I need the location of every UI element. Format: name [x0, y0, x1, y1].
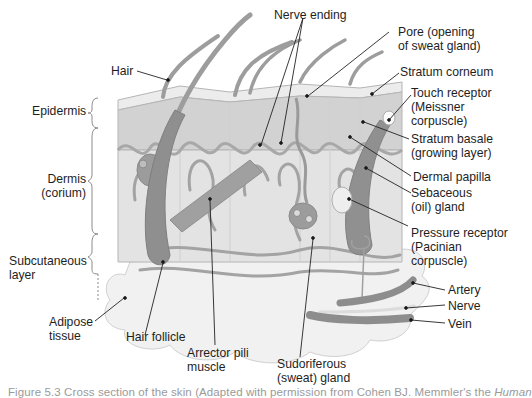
- caption-text: Cross section of the skin (Adapted with …: [61, 386, 494, 398]
- label-dermis-line2: (corium): [30, 186, 86, 200]
- label-sebaceous-gland: Sebaceous (oil) gland: [411, 186, 472, 214]
- label-artery: Artery: [448, 283, 481, 297]
- label-subcutaneous-line1: Subcutaneous: [9, 254, 87, 268]
- label-subcutaneous-line2: layer: [9, 268, 87, 282]
- meissner-corpuscle-shape: [383, 111, 395, 125]
- label-touch-receptor: Touch receptor (Meissner corpuscle): [411, 86, 492, 128]
- label-pore-line1: Pore (opening: [398, 25, 481, 39]
- adipose-tissue-shape: [105, 249, 429, 363]
- label-hair: Hair: [111, 64, 133, 78]
- label-sudoriferous-gland: Sudoriferous (sweat) gland: [277, 357, 350, 385]
- label-subcutaneous-layer: Subcutaneous layer: [9, 254, 87, 282]
- label-adipose-line1: Adipose: [49, 315, 93, 329]
- label-stratum-basale-line2: (growing layer): [411, 146, 493, 160]
- label-touch-receptor-line2: (Meissner: [411, 100, 492, 114]
- label-pore: Pore (opening of sweat gland): [398, 25, 481, 53]
- label-hair-follicle: Hair follicle: [126, 330, 186, 344]
- figure-caption: Figure 5.3 Cross section of the skin (Ad…: [8, 386, 532, 398]
- label-pressure-receptor: Pressure receptor (Pacinian corpuscle): [411, 226, 508, 268]
- label-dermal-papilla: Dermal papilla: [413, 170, 491, 184]
- label-nerve-ending: Nerve ending: [274, 8, 347, 22]
- label-touch-receptor-line3: corpuscle): [411, 114, 492, 128]
- label-stratum-basale: Stratum basale (growing layer): [411, 132, 493, 160]
- label-sebaceous-line1: Sebaceous: [411, 186, 472, 200]
- label-pore-line2: of sweat gland): [398, 39, 481, 53]
- label-touch-receptor-line1: Touch receptor: [411, 86, 492, 100]
- layer-brackets: [88, 98, 98, 302]
- caption-italic: Human: [494, 386, 532, 398]
- label-pressure-receptor-line3: corpuscle): [411, 254, 508, 268]
- label-arrector-line1: Arrector pili: [187, 346, 249, 360]
- label-epidermis: Epidermis: [32, 104, 86, 118]
- label-arrector-line2: muscle: [187, 360, 249, 374]
- label-nerve: Nerve: [448, 299, 481, 313]
- label-dermis: Dermis (corium): [30, 172, 86, 200]
- label-sudoriferous-line2: (sweat) gland: [277, 371, 350, 385]
- label-dermis-line1: Dermis: [30, 172, 86, 186]
- label-pressure-receptor-line1: Pressure receptor: [411, 226, 508, 240]
- label-pressure-receptor-line2: (Pacinian: [411, 240, 508, 254]
- label-stratum-corneum: Stratum corneum: [400, 65, 493, 79]
- sudoriferous-gland-center: [289, 203, 317, 229]
- caption-prefix: Figure 5.3: [8, 386, 61, 398]
- label-sudoriferous-line1: Sudoriferous: [277, 357, 350, 371]
- label-stratum-basale-line1: Stratum basale: [411, 132, 493, 146]
- label-adipose-tissue: Adipose tissue: [49, 315, 93, 343]
- label-vein: Vein: [448, 317, 472, 331]
- label-arrector-pili: Arrector pili muscle: [187, 346, 249, 374]
- label-adipose-line2: tissue: [49, 329, 93, 343]
- label-sebaceous-line2: (oil) gland: [411, 200, 472, 214]
